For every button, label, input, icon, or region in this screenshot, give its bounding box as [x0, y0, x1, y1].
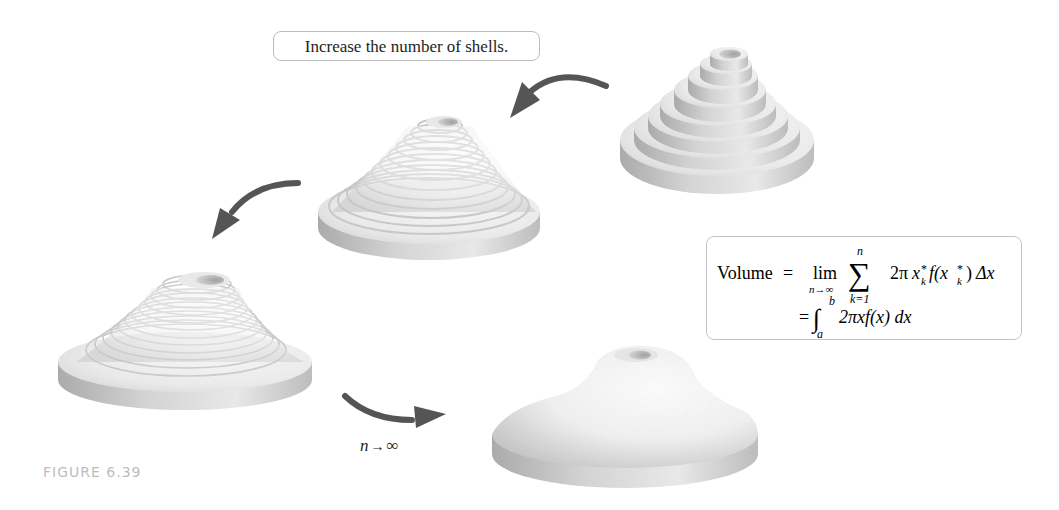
volume-formula: Volume = lim n→∞ n ∑ k=1 2π x k * f(x k …	[707, 237, 1023, 341]
formula-equals-2: =	[799, 307, 809, 327]
formula-equals: =	[783, 263, 793, 283]
figure-label: FIGURE 6.39	[43, 464, 141, 480]
formula-x-sub-2: k	[957, 275, 963, 287]
limit-infinity: ∞	[387, 436, 399, 455]
formula-integrand: 2πxf(x) dx	[839, 307, 911, 328]
formula-star: *	[921, 262, 927, 276]
curved-arrow-1-icon	[510, 77, 606, 118]
volume-formula-box: Volume = lim n→∞ n ∑ k=1 2π x k * f(x k …	[706, 236, 1022, 340]
formula-integral-upper: b	[829, 294, 835, 308]
curved-arrow-3-icon	[345, 396, 446, 428]
formula-sum-symbol: ∑	[848, 256, 871, 292]
formula-dx: Δx	[975, 263, 995, 283]
formula-lhs: Volume	[717, 263, 773, 283]
formula-coef: 2π	[890, 263, 908, 283]
formula-sum-lower: k=1	[850, 292, 869, 306]
formula-x: x	[911, 263, 920, 283]
formula-close: )	[966, 263, 972, 284]
formula-lim: lim	[813, 263, 837, 283]
formula-integral-lower: a	[817, 327, 823, 341]
limit-label: n→∞	[360, 436, 399, 456]
limit-n: n	[360, 436, 369, 455]
formula-x-sub: k	[921, 275, 927, 287]
limit-arrow: →	[371, 439, 385, 454]
curved-arrow-2-icon	[212, 183, 298, 239]
formula-star-2: *	[957, 262, 963, 276]
formula-f: f(x	[929, 263, 948, 284]
